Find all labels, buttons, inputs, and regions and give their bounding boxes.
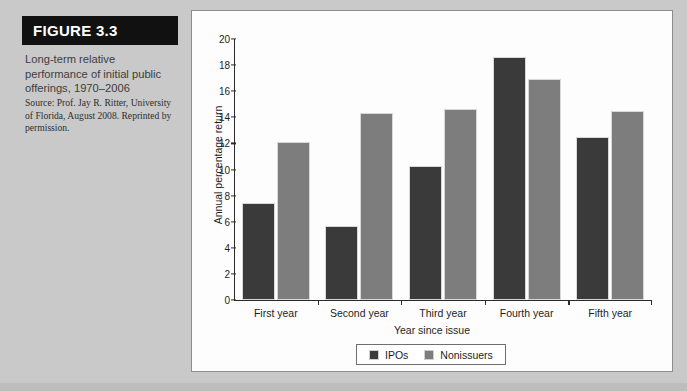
x-tick-label: Fifth year	[588, 307, 632, 319]
y-tick-label: 8	[200, 190, 230, 201]
bar-nonissuers-fourth-year	[528, 79, 561, 300]
figure-number-banner: FIGURE 3.3	[22, 16, 178, 45]
y-tick-label: 20	[200, 34, 230, 45]
y-tick-label: 14	[200, 112, 230, 123]
bar-ipos-fourth-year	[493, 57, 526, 300]
bar-nonissuers-third-year	[444, 109, 477, 300]
y-tick-label: 4	[200, 242, 230, 253]
x-tick-mark	[651, 300, 652, 305]
x-tick-mark	[568, 300, 569, 305]
y-tick-label: 10	[200, 164, 230, 175]
figure-number-label: FIGURE 3.3	[33, 22, 118, 39]
y-tick-label: 6	[200, 216, 230, 227]
figure-caption-source: Source: Prof. Jay R. Ritter, University …	[25, 97, 177, 135]
y-tick-label: 0	[200, 295, 230, 306]
plot-area: Annual percentage return 024681012141618…	[192, 11, 672, 371]
x-tick-label: First year	[254, 307, 298, 319]
figure-page: FIGURE 3.3 Long-term relative performanc…	[0, 0, 687, 391]
x-tick-mark	[401, 300, 402, 305]
figure-caption-column: FIGURE 3.3 Long-term relative performanc…	[0, 0, 186, 391]
bar-ipos-fifth-year	[576, 137, 609, 300]
x-tick-mark	[318, 300, 319, 305]
chart-panel: Annual percentage return 024681012141618…	[191, 10, 673, 372]
bars-layer	[234, 39, 652, 300]
x-tick-mark	[485, 300, 486, 305]
axis-area: 02468101214161820 First yearSecond yearT…	[234, 39, 652, 301]
y-tick-label: 18	[200, 60, 230, 71]
legend-item-ipos[interactable]: IPOs	[369, 349, 408, 361]
legend-swatch-icon	[369, 350, 379, 360]
chart-legend: IPOsNonissuers	[356, 344, 506, 365]
bar-nonissuers-second-year	[360, 113, 393, 300]
bar-ipos-first-year	[242, 203, 275, 300]
bar-ipos-third-year	[409, 166, 442, 300]
page-bottom-edge	[0, 383, 687, 391]
x-tick-label: Third year	[419, 307, 466, 319]
bar-ipos-second-year	[325, 226, 358, 300]
legend-label: Nonissuers	[440, 349, 493, 361]
x-tick-label: Second year	[330, 307, 389, 319]
figure-caption-title: Long-term relative performance of initia…	[25, 52, 177, 96]
x-axis-label: Year since issue	[192, 324, 672, 336]
legend-item-nonissuers[interactable]: Nonissuers	[424, 349, 493, 361]
y-tick-label: 16	[200, 86, 230, 97]
x-tick-label: Fourth year	[500, 307, 554, 319]
y-tick-label: 2	[200, 268, 230, 279]
y-tick-label: 12	[200, 138, 230, 149]
legend-swatch-icon	[424, 350, 434, 360]
bar-nonissuers-fifth-year	[611, 111, 644, 300]
legend-label: IPOs	[385, 349, 408, 361]
bar-nonissuers-first-year	[277, 142, 310, 300]
